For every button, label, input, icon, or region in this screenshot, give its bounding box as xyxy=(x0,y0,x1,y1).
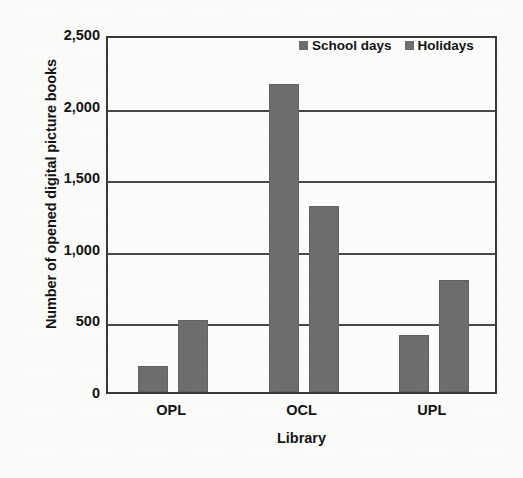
y-axis-tick-label: 2,500 xyxy=(40,28,100,43)
x-axis-tick-labels: OPLOCLUPL xyxy=(106,402,497,424)
y-axis-tick-label: 1,500 xyxy=(40,171,100,186)
plot-area xyxy=(106,36,497,394)
y-axis-tick-label: 500 xyxy=(40,314,100,329)
bar-opl-school-days xyxy=(138,366,168,392)
legend-label: School days xyxy=(312,38,392,53)
y-axis-tick-label: 1,000 xyxy=(40,243,100,258)
y-axis-tick-label: 2,000 xyxy=(40,100,100,115)
x-axis-tick-label-ocl: OCL xyxy=(262,402,342,418)
y-axis-tick-label: 0 xyxy=(40,386,100,401)
x-axis-tick-label-upl: UPL xyxy=(392,402,472,418)
legend-item-holidays: Holidays xyxy=(405,38,474,53)
legend-swatch-holidays xyxy=(405,41,414,50)
legend-item-school-days: School days xyxy=(299,38,392,53)
legend-label: Holidays xyxy=(418,38,474,53)
legend-swatch-school-days xyxy=(299,41,308,50)
bar-upl-holidays xyxy=(439,280,469,392)
bar-opl-holidays xyxy=(178,320,208,392)
bar-ocl-school-days xyxy=(269,84,299,392)
y-axis-tick-labels: 05001,0001,5002,0002,500 xyxy=(40,30,100,402)
bar-upl-school-days xyxy=(399,335,429,392)
x-axis-title: Library xyxy=(106,430,497,446)
x-axis-tick-label-opl: OPL xyxy=(131,402,211,418)
bar-ocl-holidays xyxy=(309,206,339,392)
bar-chart-figure: Number of opened digital picture books 0… xyxy=(0,0,523,478)
chart-legend: School daysHolidays xyxy=(299,38,474,53)
bars-layer xyxy=(108,38,495,392)
